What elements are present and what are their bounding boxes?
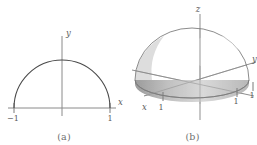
y-unit-label: 1 xyxy=(233,97,238,106)
x-axis-label: x xyxy=(118,97,123,107)
x-tick-label-minus-one: −1 xyxy=(7,114,19,123)
panel-b: z x y 1 1 1 (b) xyxy=(128,0,257,145)
semicircle-plot: x y −1 1 xyxy=(0,0,128,128)
panel-a-caption: (a) xyxy=(0,131,128,142)
x-axis-label: x xyxy=(142,102,147,112)
front-unit-label: 1 xyxy=(249,91,254,100)
y-axis-label: y xyxy=(251,54,257,64)
x-unit-label: 1 xyxy=(158,103,163,112)
y-axis-label: y xyxy=(65,28,71,38)
panel-b-caption: (b) xyxy=(128,131,257,142)
panel-a: x y −1 1 (a) xyxy=(0,0,128,145)
hemisphere-plot: z x y 1 1 1 xyxy=(128,0,257,129)
figure-container: x y −1 1 (a) xyxy=(0,0,257,145)
z-axis-label: z xyxy=(195,4,201,14)
x-tick-label-one: 1 xyxy=(107,114,112,123)
